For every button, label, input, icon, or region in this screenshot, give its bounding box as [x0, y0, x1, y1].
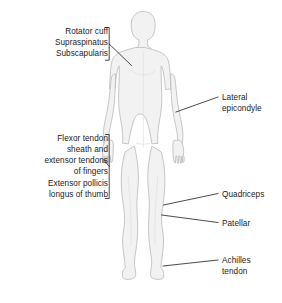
label-quadriceps: Quadriceps	[222, 189, 280, 200]
leader-achilles-tendon	[163, 260, 218, 266]
hand-right-shape	[173, 140, 184, 163]
anatomy-figure: Rotator cuff Supraspinatus Subscapularis…	[0, 0, 282, 303]
label-extensor-pollicis-group: Extensor pollicis longus of thumb	[4, 178, 108, 200]
torso-shape	[110, 48, 171, 144]
label-rotator-cuff-group: Rotator cuff Supraspinatus Subscapularis	[4, 26, 108, 59]
body-silhouette	[102, 12, 184, 280]
leader-patellar	[162, 215, 219, 223]
label-flexor-tendon-group: Flexor tendon sheath and extensor tendon…	[4, 133, 108, 177]
label-lateral-epicondyle: Lateral epicondyle	[222, 92, 280, 114]
head-shape	[131, 12, 155, 50]
leg-left-shape	[121, 146, 138, 279]
label-achilles-tendon: Achilles tendon	[222, 255, 280, 277]
leg-right-shape	[148, 146, 165, 279]
leader-quadriceps	[164, 194, 219, 206]
label-patellar: Patellar	[222, 218, 280, 229]
arm-right-shape	[171, 74, 183, 145]
leader-lateral-epicondyle	[176, 97, 218, 112]
